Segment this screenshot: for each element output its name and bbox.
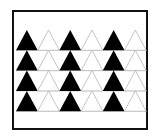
filled-triangle-icon <box>16 30 38 50</box>
filled-triangle-icon <box>59 50 81 70</box>
filled-triangle-icon <box>59 30 81 50</box>
outline-triangle-icon <box>125 50 147 70</box>
filled-triangle-icon <box>16 50 38 70</box>
outline-triangle-icon <box>38 50 60 70</box>
outline-triangle-icon <box>81 30 103 50</box>
filled-triangle-icon <box>16 71 38 91</box>
filled-triangle-icon <box>16 91 38 111</box>
outline-triangle-icon <box>38 30 60 50</box>
filled-triangle-icon <box>103 91 125 111</box>
outline-triangle-icon <box>125 71 147 91</box>
outline-triangle-icon <box>38 91 60 111</box>
triangle-grid <box>0 0 159 139</box>
outline-triangle-icon <box>125 91 147 111</box>
filled-triangle-icon <box>59 71 81 91</box>
filled-triangle-icon <box>59 91 81 111</box>
filled-triangle-icon <box>103 50 125 70</box>
outline-triangle-icon <box>38 71 60 91</box>
outline-triangle-icon <box>81 50 103 70</box>
outline-triangle-icon <box>125 30 147 50</box>
outline-triangle-icon <box>81 91 103 111</box>
filled-triangle-icon <box>103 71 125 91</box>
filled-triangle-icon <box>103 30 125 50</box>
outline-triangle-icon <box>81 71 103 91</box>
